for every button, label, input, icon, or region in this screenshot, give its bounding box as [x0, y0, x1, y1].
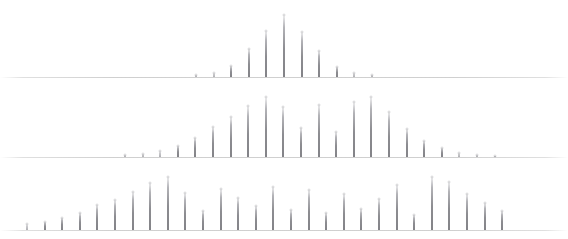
peak-tip — [307, 188, 311, 192]
peak-tip — [324, 211, 328, 215]
peak-tip — [465, 192, 469, 196]
peak-tip — [247, 47, 251, 51]
peak-tip — [377, 197, 381, 201]
spectrum-peak — [308, 190, 310, 230]
peak-tip — [43, 220, 47, 224]
peak-tip — [369, 95, 373, 99]
peak-tip — [246, 104, 250, 108]
peak-tip — [299, 126, 303, 130]
spectrum-peak — [213, 73, 215, 77]
panel-middle-peaks — [0, 80, 568, 157]
spectrum-peak — [167, 177, 169, 230]
peak-tip — [342, 192, 346, 196]
peak-tip — [271, 185, 275, 189]
spectrum-peak — [282, 107, 284, 157]
spectrum-peak — [301, 32, 303, 77]
peak-tip — [193, 136, 197, 140]
spectrum-peak — [360, 209, 362, 230]
peak-tip — [113, 198, 117, 202]
peak-tip — [335, 65, 339, 69]
peak-tip — [212, 71, 216, 75]
peak-tip — [264, 95, 268, 99]
spectrum-peak — [61, 218, 63, 230]
peak-tip — [359, 207, 363, 211]
spectrum-peak — [79, 213, 81, 230]
peak-tip — [412, 213, 416, 217]
spectrum-peak — [431, 177, 433, 230]
spectrum-figure — [0, 0, 568, 239]
spectrum-peak — [378, 199, 380, 230]
peak-tip — [95, 203, 99, 207]
peak-tip — [483, 201, 487, 205]
peak-tip — [229, 115, 233, 119]
spectrum-peak — [396, 185, 398, 230]
spectrum-peak — [501, 211, 503, 230]
peak-tip — [289, 208, 293, 212]
spectrum-peak — [353, 73, 355, 77]
peak-tip — [236, 196, 240, 200]
spectrum-peak — [318, 105, 320, 157]
spectrum-peak — [290, 210, 292, 230]
panel-top — [0, 0, 568, 78]
peak-tip — [422, 139, 426, 143]
spectrum-peak — [265, 31, 267, 77]
peak-tip — [194, 73, 198, 77]
panel-top-peaks — [0, 0, 568, 77]
spectrum-peak — [149, 183, 151, 230]
spectrum-peak — [466, 194, 468, 230]
peak-tip — [183, 191, 187, 195]
spectrum-peak — [230, 117, 232, 157]
spectrum-peak — [353, 102, 355, 157]
spectrum-peak — [44, 222, 46, 230]
spectrum-peak — [371, 75, 373, 77]
peak-tip — [201, 209, 205, 213]
peak-tip — [229, 64, 233, 68]
peak-tip — [176, 144, 180, 148]
panel-top-baseline — [0, 77, 568, 78]
spectrum-peak — [255, 206, 257, 230]
spectrum-peak — [247, 106, 249, 157]
peak-tip — [405, 127, 409, 131]
panel-bottom-baseline — [0, 230, 568, 231]
peak-tip — [60, 216, 64, 220]
peak-tip — [219, 187, 223, 191]
peak-tip — [430, 175, 434, 179]
peak-tip — [317, 103, 321, 107]
peak-tip — [334, 130, 338, 134]
peak-tip — [395, 183, 399, 187]
spectrum-peak — [272, 187, 274, 230]
peak-tip — [166, 175, 170, 179]
spectrum-peak — [184, 193, 186, 230]
peak-tip — [131, 190, 135, 194]
spectrum-peak — [484, 203, 486, 230]
panel-bottom — [0, 153, 568, 231]
peak-tip — [500, 209, 504, 213]
spectrum-peak — [248, 49, 250, 77]
peak-tip — [317, 49, 321, 53]
spectrum-peak — [220, 189, 222, 230]
peak-tip — [440, 146, 444, 150]
spectrum-peak — [237, 198, 239, 230]
peak-tip — [370, 73, 374, 77]
peak-tip — [281, 105, 285, 109]
spectrum-peak — [370, 97, 372, 157]
spectrum-peak — [343, 194, 345, 230]
peak-tip — [447, 180, 451, 184]
spectrum-peak — [195, 75, 197, 77]
panel-middle — [0, 80, 568, 158]
peak-tip — [254, 204, 258, 208]
peak-tip — [300, 30, 304, 34]
spectrum-peak — [96, 205, 98, 230]
spectrum-peak — [325, 213, 327, 230]
peak-tip — [211, 125, 215, 129]
spectrum-peak — [318, 51, 320, 77]
peak-tip — [148, 181, 152, 185]
spectrum-peak — [265, 97, 267, 157]
peak-tip — [25, 222, 29, 226]
peak-tip — [78, 211, 82, 215]
peak-tip — [352, 71, 356, 75]
peak-tip — [352, 100, 356, 104]
peak-tip — [282, 13, 286, 17]
spectrum-peak — [388, 112, 390, 157]
spectrum-peak — [413, 215, 415, 230]
